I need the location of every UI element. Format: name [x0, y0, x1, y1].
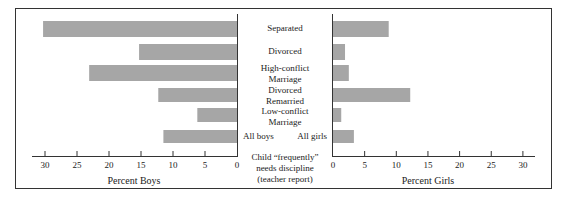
- center-caption: Child “frequently”: [251, 152, 318, 162]
- category-label: Low-conflict: [262, 106, 309, 116]
- category-label: Divorced: [268, 46, 302, 56]
- discipline-chart: 051015202530Percent Boys 051015202530Per…: [0, 0, 568, 200]
- girls-panel: 051015202530Percent Girls: [331, 14, 535, 186]
- tick-label: 15: [423, 160, 433, 170]
- girls-bar: [333, 65, 349, 81]
- category-label: Remarried: [266, 96, 304, 106]
- all-boys-label: All boys: [243, 131, 274, 141]
- tick-label: 10: [169, 160, 179, 170]
- tick-label: 0: [235, 160, 240, 170]
- girls-bar: [333, 108, 341, 122]
- tick-label: 25: [73, 160, 83, 170]
- boys-bar: [163, 130, 237, 143]
- tick-label: 5: [362, 160, 367, 170]
- center-caption: (teacher report): [257, 174, 313, 184]
- boys-bar: [158, 88, 237, 102]
- girls-bar: [333, 21, 389, 37]
- category-labels: SeparatedDivorcedHigh-conflictMarriageDi…: [243, 23, 327, 184]
- category-label: Separated: [267, 23, 303, 33]
- girls-bar: [333, 88, 410, 102]
- tick-label: 30: [518, 160, 528, 170]
- tick-label: 25: [487, 160, 497, 170]
- all-girls-label: All girls: [297, 131, 327, 141]
- category-label: Divorced: [268, 85, 302, 95]
- boys-bar: [197, 108, 237, 122]
- category-label: High-conflict: [261, 63, 310, 73]
- tick-label: 10: [392, 160, 402, 170]
- boys-bar: [139, 44, 237, 60]
- category-label: Marriage: [269, 74, 302, 84]
- tick-label: 5: [203, 160, 208, 170]
- center-caption: needs discipline: [256, 163, 314, 173]
- boys-bar: [43, 21, 237, 37]
- boys-panel: 051015202530Percent Boys: [32, 14, 240, 186]
- category-label: Marriage: [269, 117, 302, 127]
- tick-label: 0: [331, 160, 336, 170]
- boys-bar: [89, 65, 237, 81]
- girls-bar: [333, 130, 354, 143]
- x-axis-title-girls: Percent Girls: [402, 175, 455, 186]
- tick-label: 30: [41, 160, 51, 170]
- tick-label: 20: [105, 160, 115, 170]
- tick-label: 15: [137, 160, 147, 170]
- x-axis-title-boys: Percent Boys: [107, 175, 160, 186]
- tick-label: 20: [455, 160, 465, 170]
- girls-bar: [333, 44, 345, 60]
